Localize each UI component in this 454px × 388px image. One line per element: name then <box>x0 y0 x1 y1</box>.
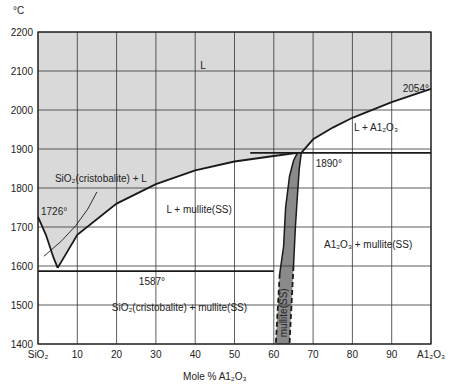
region-label: SiO₂(cristobalite) + mullite(SS) <box>112 302 247 313</box>
y-axis-unit: °C <box>13 5 24 16</box>
y-tick-label: 1800 <box>11 183 34 194</box>
x-tick-label: 20 <box>111 349 123 360</box>
region-label-mullite-ss: mullite(SS) <box>278 288 289 337</box>
y-tick-label: 1500 <box>11 300 34 311</box>
phase-diagram: 140015001600170018001900200021002200SiO₂… <box>0 0 454 388</box>
label-1726: 1726° <box>41 206 67 217</box>
x-tick-label: 30 <box>150 349 162 360</box>
region-label: L + A1₂O₃ <box>354 122 398 133</box>
x-tick-label: 10 <box>72 349 84 360</box>
x-tick-label: 80 <box>347 349 359 360</box>
region-label: L + mullite(SS) <box>166 204 231 215</box>
x-tick-label: 40 <box>190 349 202 360</box>
y-tick-label: 1900 <box>11 144 34 155</box>
x-tick-label: SiO₂ <box>28 349 49 360</box>
label-2054: 2054° <box>403 83 429 94</box>
region-label: A1₂O₃ + mullite(SS) <box>324 239 412 250</box>
x-tick-label: 70 <box>308 349 320 360</box>
y-tick-label: 2000 <box>11 105 34 116</box>
region-label: SiO₂(cristobalite) + L <box>55 173 147 184</box>
y-tick-label: 2200 <box>11 27 34 38</box>
x-tick-label: 50 <box>229 349 241 360</box>
y-tick-label: 1700 <box>11 222 34 233</box>
y-tick-label: 1600 <box>11 261 34 272</box>
x-tick-label: 60 <box>268 349 280 360</box>
label-1587: 1587° <box>139 276 165 287</box>
label-1890: 1890° <box>316 158 342 169</box>
x-tick-label: A1₂O₃ <box>417 349 445 360</box>
y-tick-label: 2100 <box>11 66 34 77</box>
x-axis-title: Mole % A1₂O₃ <box>183 371 247 382</box>
x-tick-label: 90 <box>386 349 398 360</box>
region-label: L <box>200 60 206 71</box>
